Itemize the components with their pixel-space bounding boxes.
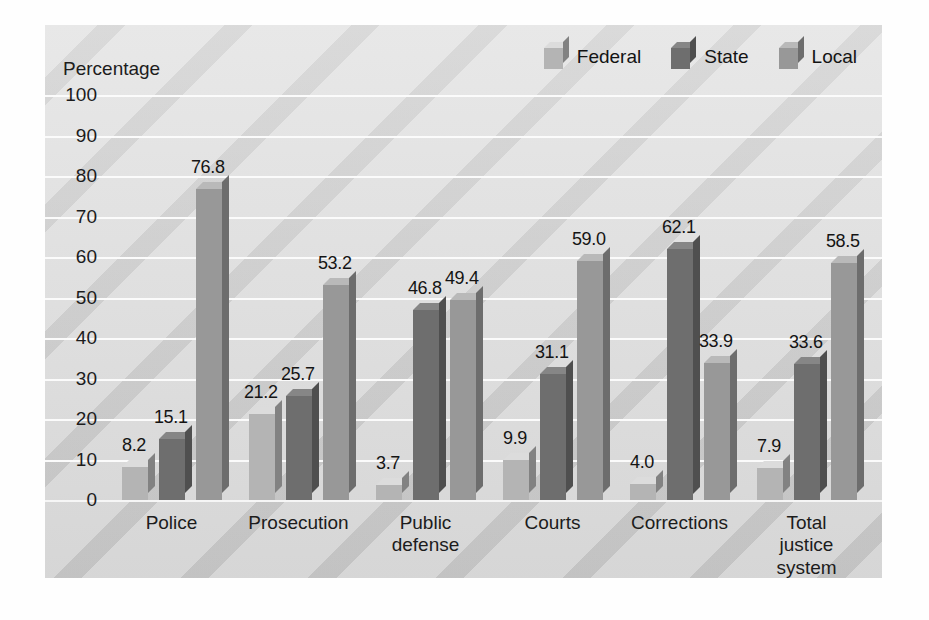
bar[interactable]: 58.5 bbox=[831, 263, 857, 500]
bar[interactable]: 31.1 bbox=[540, 374, 566, 500]
legend-item[interactable]: State bbox=[671, 45, 748, 69]
x-axis-category-label: Totaljusticesystem bbox=[743, 512, 870, 578]
bar-item[interactable]: 76.8 bbox=[196, 189, 222, 500]
bar[interactable]: 15.1 bbox=[159, 439, 185, 500]
bar[interactable]: 7.9 bbox=[757, 468, 783, 500]
y-axis-tick-label: 50 bbox=[76, 287, 97, 309]
bar-item[interactable]: 7.9 bbox=[757, 468, 783, 500]
bar[interactable]: 21.2 bbox=[249, 414, 275, 500]
bar[interactable]: 59.0 bbox=[577, 261, 603, 500]
bar-value-label: 62.1 bbox=[662, 217, 696, 238]
y-axis-tick-label: 90 bbox=[76, 125, 97, 147]
chart-panel: Percentage 1009080706050403020100 8.215.… bbox=[45, 25, 882, 578]
bar-item[interactable]: 31.1 bbox=[540, 374, 566, 500]
bar[interactable]: 8.2 bbox=[122, 467, 148, 500]
bar[interactable]: 9.9 bbox=[503, 460, 529, 500]
bar-value-label: 53.2 bbox=[318, 253, 352, 274]
bar[interactable]: 49.4 bbox=[450, 300, 476, 500]
y-axis-tick-label: 70 bbox=[76, 206, 97, 228]
bar-item[interactable]: 21.2 bbox=[249, 414, 275, 500]
bar-group: 7.933.658.5 bbox=[743, 95, 870, 500]
y-axis-ticks: 1009080706050403020100 bbox=[45, 95, 97, 500]
bar-value-label: 33.9 bbox=[699, 331, 733, 352]
bar-value-label: 33.6 bbox=[789, 332, 823, 353]
bar-item[interactable]: 25.7 bbox=[286, 396, 312, 500]
bar[interactable]: 76.8 bbox=[196, 189, 222, 500]
bar-group: 3.746.849.4 bbox=[362, 95, 489, 500]
x-axis-category-label: Publicdefense bbox=[362, 512, 489, 578]
y-axis-tick-label: 40 bbox=[76, 327, 97, 349]
bar[interactable]: 4.0 bbox=[630, 484, 656, 500]
bar[interactable]: 33.6 bbox=[794, 364, 820, 500]
bar-value-label: 8.2 bbox=[122, 435, 146, 456]
bar-item[interactable]: 15.1 bbox=[159, 439, 185, 500]
bar[interactable]: 46.8 bbox=[413, 310, 439, 500]
y-axis-tick-label: 60 bbox=[76, 246, 97, 268]
bar-item[interactable]: 62.1 bbox=[667, 249, 693, 501]
legend-swatch-icon bbox=[671, 48, 690, 69]
bar-item[interactable]: 53.2 bbox=[323, 285, 349, 500]
x-axis-category-label: Police bbox=[108, 512, 235, 578]
y-axis-tick-label: 20 bbox=[76, 408, 97, 430]
legend-item[interactable]: Federal bbox=[544, 45, 641, 69]
legend-item[interactable]: Local bbox=[779, 45, 857, 69]
bar-value-label: 21.2 bbox=[244, 382, 278, 403]
bar[interactable]: 62.1 bbox=[667, 249, 693, 501]
bar-value-label: 25.7 bbox=[281, 364, 315, 385]
y-axis-title: Percentage bbox=[63, 58, 160, 80]
bar[interactable]: 53.2 bbox=[323, 285, 349, 500]
axis-baseline bbox=[45, 500, 882, 502]
bar-value-label: 4.0 bbox=[630, 452, 654, 473]
bar-value-label: 31.1 bbox=[535, 342, 569, 363]
bar-value-label: 59.0 bbox=[572, 229, 606, 250]
y-axis-tick-label: 10 bbox=[76, 449, 97, 471]
bar-value-label: 76.8 bbox=[191, 157, 225, 178]
bar-item[interactable]: 59.0 bbox=[577, 261, 603, 500]
bar-value-label: 58.5 bbox=[826, 231, 860, 252]
bar-item[interactable]: 3.7 bbox=[376, 485, 402, 500]
bar-item[interactable]: 8.2 bbox=[122, 467, 148, 500]
bar-group: 9.931.159.0 bbox=[489, 95, 616, 500]
bar-value-label: 46.8 bbox=[408, 278, 442, 299]
bar-group: 21.225.753.2 bbox=[235, 95, 362, 500]
bar-item[interactable]: 33.6 bbox=[794, 364, 820, 500]
bar-group: 4.062.133.9 bbox=[616, 95, 743, 500]
x-axis-category-label: Corrections bbox=[616, 512, 743, 578]
x-axis-category-label: Courts bbox=[489, 512, 616, 578]
bar-item[interactable]: 4.0 bbox=[630, 484, 656, 500]
chart-root: Percentage 1009080706050403020100 8.215.… bbox=[0, 0, 929, 620]
bar-groups: 8.215.176.821.225.753.23.746.849.49.931.… bbox=[108, 95, 870, 500]
bar-value-label: 7.9 bbox=[757, 436, 781, 457]
bar-item[interactable]: 33.9 bbox=[704, 363, 730, 500]
bar[interactable]: 3.7 bbox=[376, 485, 402, 500]
y-axis-tick-label: 100 bbox=[65, 84, 97, 106]
y-axis-tick-label: 0 bbox=[86, 489, 97, 511]
bar-value-label: 3.7 bbox=[376, 453, 400, 474]
bar[interactable]: 25.7 bbox=[286, 396, 312, 500]
legend-label: Local bbox=[812, 46, 857, 68]
legend-label: Federal bbox=[577, 46, 641, 68]
x-axis-category-label: Prosecution bbox=[235, 512, 362, 578]
bar-value-label: 49.4 bbox=[445, 268, 479, 289]
legend-swatch-icon bbox=[779, 48, 798, 69]
bar-item[interactable]: 9.9 bbox=[503, 460, 529, 500]
bar-item[interactable]: 49.4 bbox=[450, 300, 476, 500]
bar-item[interactable]: 58.5 bbox=[831, 263, 857, 500]
legend-label: State bbox=[704, 46, 748, 68]
chart-legend: FederalStateLocal bbox=[544, 45, 857, 69]
bar-value-label: 9.9 bbox=[503, 428, 527, 449]
bar-value-label: 15.1 bbox=[154, 407, 188, 428]
y-axis-tick-label: 80 bbox=[76, 165, 97, 187]
bar[interactable]: 33.9 bbox=[704, 363, 730, 500]
y-axis-tick-label: 30 bbox=[76, 368, 97, 390]
bar-group: 8.215.176.8 bbox=[108, 95, 235, 500]
x-axis-labels: PoliceProsecutionPublicdefenseCourtsCorr… bbox=[108, 512, 870, 578]
legend-swatch-icon bbox=[544, 48, 563, 69]
bar-item[interactable]: 46.8 bbox=[413, 310, 439, 500]
